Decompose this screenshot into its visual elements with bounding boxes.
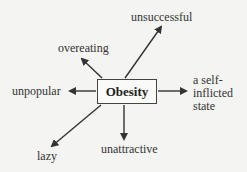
label-self-inflicted-line-3: state: [193, 100, 233, 113]
label-unsuccessful: unsuccessful: [131, 11, 192, 23]
label-lazy: lazy: [37, 150, 57, 162]
label-overeating: overeating: [58, 42, 109, 54]
arrow-overeating: [82, 59, 102, 78]
label-unpopular: unpopular: [12, 85, 61, 97]
obesity-concept-diagram: Obesity unsuccessful overeating unpopula…: [0, 0, 247, 172]
center-concept-box: Obesity: [97, 79, 157, 104]
label-self-inflicted: a self- inflicted state: [193, 74, 233, 113]
arrow-unsuccessful: [125, 27, 161, 78]
center-concept-label: Obesity: [106, 84, 149, 100]
label-unattractive: unattractive: [101, 143, 158, 155]
arrow-lazy: [52, 105, 101, 146]
